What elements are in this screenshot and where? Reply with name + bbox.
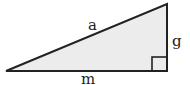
triangle-diagram: a g m <box>0 0 190 85</box>
triangle-shape <box>6 4 167 71</box>
label-horizontal-leg: m <box>81 70 95 85</box>
label-vertical-leg: g <box>172 32 182 50</box>
label-hypotenuse: a <box>88 16 97 34</box>
